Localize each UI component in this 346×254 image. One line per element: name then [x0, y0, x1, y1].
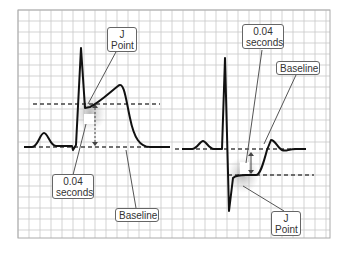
- st-depression-duration-label: 0.04seconds: [242, 24, 284, 49]
- st-elevation-j-point-label: JPoint: [107, 27, 137, 52]
- label-line-2: Point: [111, 40, 133, 51]
- st-elevation-duration-label: 0.04seconds: [52, 174, 94, 199]
- arrow-down-icon: [92, 142, 98, 146]
- j-point-leader: [88, 50, 117, 104]
- baseline-leader: [264, 75, 296, 144]
- label-line-1: Baseline: [119, 210, 155, 221]
- measure-box: [84, 114, 94, 124]
- st-elevation-baseline-label: Baseline: [115, 208, 159, 222]
- label-line-2: Point: [275, 224, 297, 235]
- st-depression-j-point-label: JPoint: [271, 211, 301, 236]
- label-line-2: seconds: [246, 37, 280, 48]
- label-line-1: Baseline: [280, 63, 316, 74]
- ecg-diagram: JPoint0.04secondsBaseline0.04secondsBase…: [0, 0, 346, 254]
- label-line-1: 0.04: [246, 26, 280, 37]
- measure-box: [240, 162, 249, 174]
- baseline-leader: [126, 150, 136, 208]
- st-depression-baseline-label: Baseline: [276, 61, 320, 75]
- label-line-1: 0.04: [56, 176, 90, 187]
- label-line-1: J: [275, 213, 297, 224]
- label-line-1: J: [111, 29, 133, 40]
- label-line-2: seconds: [56, 187, 90, 198]
